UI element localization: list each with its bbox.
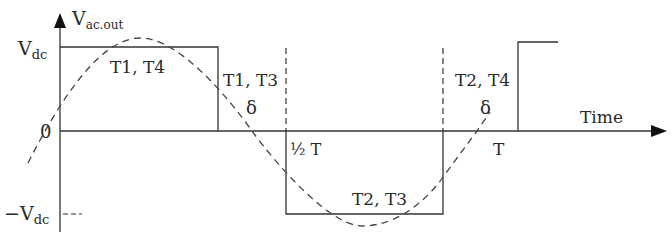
fundamental-sine [28,38,490,226]
delta-2-label: δ [480,97,491,118]
pulse-pos-label: T1, T4 [110,57,165,77]
x-axis-label: Time [580,107,623,127]
vdc-label: Vdc [17,37,47,62]
pulse-neg-label: T2, T3 [352,189,407,209]
period-label: T [493,139,505,159]
waveform-diagram: Vac.out Vdc 0 −Vdc T1, T4 T1, T3 δ ½ T T… [0,0,672,243]
half-period-label: ½ T [290,140,322,159]
zero-interval-2-label: T2, T4 [455,70,510,90]
neg-vdc-label: −Vdc [4,202,49,227]
x-axis-arrow-icon [651,125,667,137]
zero-label: 0 [40,121,51,142]
y-axis-label: Vac.out [71,7,123,32]
zero-interval-1-label: T1, T3 [223,70,278,90]
next-positive-pulse [518,42,558,131]
delta-1-label: δ [246,97,257,118]
y-axis-arrow-icon [54,13,66,28]
